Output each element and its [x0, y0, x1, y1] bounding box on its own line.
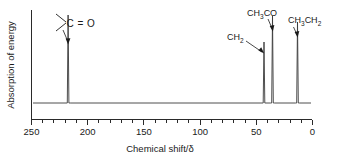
x-axis-tick-labels: 250 200 150 100 50 0 — [24, 126, 316, 137]
x-axis-title: Chemical shift/δ — [126, 143, 194, 154]
ch2-annotation: CH2 — [227, 32, 264, 54]
carbonyl-arrowhead — [66, 38, 71, 44]
carbonyl-annotation: C = O — [56, 14, 95, 45]
x-tick-label-50: 50 — [251, 126, 262, 137]
ch3ch2-annotation: CH3CH2 — [288, 15, 322, 38]
ch2-label: CH2 — [227, 32, 244, 44]
ch3co-label: CH3CO — [247, 8, 277, 20]
ch2-arrowhead — [258, 47, 264, 53]
x-tick-label-100: 100 — [192, 126, 208, 137]
y-axis-title: Absorption of energy — [5, 21, 16, 109]
x-tick-label-0: 0 — [310, 126, 315, 137]
x-axis-major-ticks — [32, 120, 313, 125]
carbonyl-label: C = O — [67, 18, 96, 29]
x-tick-label-200: 200 — [80, 126, 96, 137]
carbonyl-bond-upper — [56, 14, 66, 22]
spectrum-plot: C = O CH2 CH3CO CH3CH2 — [0, 0, 337, 159]
carbonyl-bond-lower — [56, 23, 66, 31]
x-tick-label-250: 250 — [24, 126, 40, 137]
ch3ch2-label: CH3CH2 — [288, 15, 322, 27]
x-tick-label-150: 150 — [136, 126, 152, 137]
nmr-spectrum-figure: C = O CH2 CH3CO CH3CH2 — [0, 0, 337, 159]
